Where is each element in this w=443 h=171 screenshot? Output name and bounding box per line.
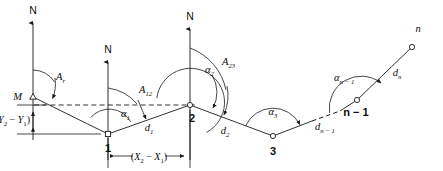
angle-label-alpha2: α2 bbox=[205, 64, 215, 77]
traverse-diagram-canvas: N N N M 1 2 3 bbox=[0, 0, 443, 171]
distance-label-d2: d2 bbox=[221, 125, 230, 138]
azimuth-arc-a23: A23 bbox=[190, 48, 236, 115]
azimuth-arc-ar: Ar bbox=[33, 70, 65, 99]
delta-y-label: (Y2 − Y1) bbox=[0, 114, 30, 127]
angle-label-alpha1-sub: 1 bbox=[127, 114, 130, 121]
azimuth-arc-ar-path bbox=[33, 70, 55, 82]
station-label-n: n bbox=[415, 23, 420, 34]
leg-break-dashed bbox=[312, 111, 340, 121]
azimuth-arc-a12: A12 bbox=[108, 84, 153, 119]
station-marker-2 bbox=[187, 102, 192, 107]
north-label-at-2: N bbox=[186, 10, 194, 22]
leg-3-to-break bbox=[273, 121, 312, 136]
distance-label-d1: d1 bbox=[145, 122, 154, 135]
angle-arc-alpha3: α3 bbox=[246, 106, 300, 126]
azimuth-label-ar: Ar bbox=[55, 71, 65, 84]
azimuth-leader-a12 bbox=[138, 100, 146, 119]
station-marker-n-minus-1 bbox=[354, 97, 359, 102]
azimuth-label-a23: A23 bbox=[221, 56, 236, 69]
leg-m-to-1 bbox=[33, 97, 108, 134]
angle-arc-alpha1: α1 bbox=[91, 108, 131, 122]
azimuth-label-a23-sub: 23 bbox=[228, 62, 235, 69]
distance-label-dn-minus-1-sub: n − 1 bbox=[320, 127, 335, 134]
angle-label-alpha1: α1 bbox=[121, 108, 130, 121]
station-label-n-minus-1: n − 1 bbox=[343, 106, 368, 118]
azimuth-label-a12: A12 bbox=[138, 84, 153, 97]
station-marker-1 bbox=[105, 131, 110, 136]
leg-2-to-3 bbox=[190, 105, 273, 136]
station-marker-n bbox=[409, 44, 414, 49]
azimuth-label-ar-sub: r bbox=[62, 77, 65, 84]
delta-x-close: ) bbox=[164, 151, 167, 163]
distance-label-dn: dn bbox=[393, 67, 402, 80]
angle-label-alpha2-sub: 2 bbox=[211, 70, 215, 77]
leg-n-minus-1-to-n bbox=[357, 47, 412, 100]
delta-x-label: (X2 − X1) bbox=[131, 151, 167, 164]
dimension-delta-y: (Y2 − Y1) bbox=[0, 105, 101, 134]
station-marker-3 bbox=[270, 133, 275, 138]
north-label-at-m: N bbox=[29, 4, 37, 16]
station-label-m: M bbox=[12, 91, 23, 102]
angle-label-alpha3-sub: 3 bbox=[273, 112, 278, 119]
distance-label-dn-minus-1: dn − 1 bbox=[315, 121, 335, 134]
north-label-at-1: N bbox=[104, 43, 112, 55]
distance-label-d2-sub: 2 bbox=[226, 131, 230, 138]
distance-label-d1-sub: 1 bbox=[150, 128, 153, 135]
delta-x-operator: − bbox=[144, 151, 155, 162]
azimuth-label-a12-sub: 12 bbox=[145, 90, 152, 97]
delta-y-close: ) bbox=[27, 114, 30, 126]
station-marker-m bbox=[30, 94, 36, 100]
station-label-3: 3 bbox=[270, 145, 276, 157]
distance-label-dn-sub: n bbox=[398, 73, 402, 80]
azimuth-arc-a12-path bbox=[108, 88, 137, 104]
angle-label-alpha-n-minus-1: αn − 1 bbox=[334, 72, 354, 85]
traverse-diagram: N N N M 1 2 3 bbox=[0, 0, 443, 171]
angle-label-alpha-n-minus-1-sub: n − 1 bbox=[340, 78, 355, 85]
delta-y-operator: − bbox=[7, 114, 18, 125]
angle-label-alpha3: α3 bbox=[269, 106, 279, 119]
